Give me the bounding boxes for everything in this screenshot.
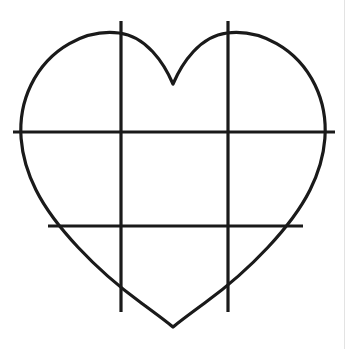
heart-outline-path — [21, 32, 325, 327]
figure-canvas: Heart outline crossed by two vertical an… — [0, 0, 356, 349]
heart-grid-drawing — [0, 0, 356, 349]
page-edge-right-border — [344, 0, 345, 349]
